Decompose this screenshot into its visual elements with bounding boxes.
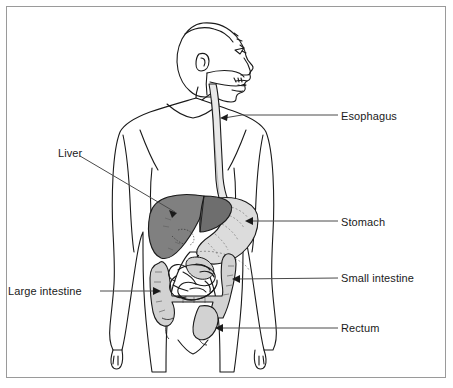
right-hand-fingers [259, 356, 264, 365]
label-rectum: Rectum [341, 322, 380, 334]
leader-small-intestine [236, 278, 338, 279]
label-stomach: Stomach [341, 216, 385, 228]
label-large-intestine: Large intestine [8, 285, 82, 297]
label-esophagus: Esophagus [341, 110, 397, 122]
anatomy-illustration [0, 0, 453, 388]
label-liver: Liver [58, 147, 82, 159]
digestive-system-figure: Esophagus Stomach Small intestine Rectum… [0, 0, 453, 388]
small-intestine-coil-10 [205, 281, 210, 292]
label-small-intestine: Small intestine [341, 272, 414, 284]
right-hand [254, 350, 266, 369]
rectum-shape [193, 306, 218, 340]
small-intestine-coil-11 [173, 285, 188, 291]
left-hand-fingers [113, 356, 118, 365]
left-hand [111, 350, 123, 369]
small-intestine-coil-7 [190, 288, 206, 292]
crotch-line [178, 340, 208, 354]
rectum-organ [193, 306, 218, 345]
